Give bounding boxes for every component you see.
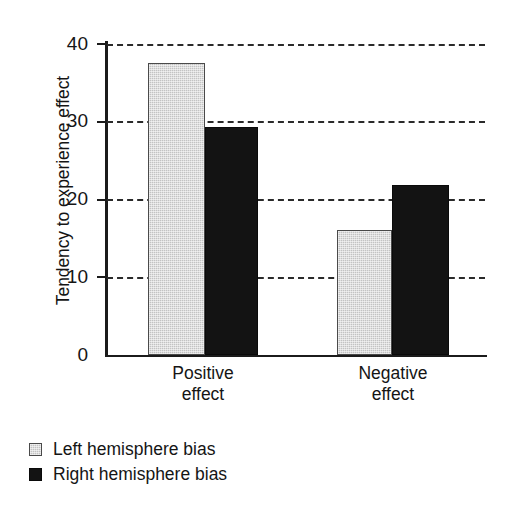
y-tick-30 [97,121,106,123]
bar-positive-left-hemisphere-bias [148,63,205,355]
chart-legend: Left hemisphere bias Right hemisphere bi… [29,437,369,487]
x-category-label-negative-line1: Negative [358,363,427,383]
gridline-10 [107,277,485,279]
x-axis-line [105,355,487,358]
y-tick-label-40: 40 [34,33,88,55]
legend-swatch-gray-icon [29,443,42,456]
bar-chart-figure: Tendency to experience effect 40 30 20 1… [0,0,510,508]
bar-negative-right-hemisphere-bias [392,185,449,355]
legend-swatch-black-icon [29,468,42,481]
y-tick-label-30: 30 [34,110,88,132]
x-category-label-positive-line1: Positive [172,363,233,383]
y-tick-label-10: 10 [34,266,88,288]
gridline-40 [107,44,485,46]
x-category-label-negative-line2: effect [308,384,478,405]
legend-label-left-hemisphere-bias: Left hemisphere bias [53,439,215,460]
y-tick-label-0: 0 [34,344,88,366]
x-category-label-negative: Negative effect [308,363,478,406]
plot-area [0,0,510,508]
legend-item-left-hemisphere-bias: Left hemisphere bias [29,437,369,462]
y-tick-40 [97,43,106,45]
y-tick-10 [97,276,106,278]
bar-negative-left-hemisphere-bias [337,230,392,355]
x-category-label-positive-line2: effect [118,384,288,405]
legend-item-right-hemisphere-bias: Right hemisphere bias [29,462,369,487]
x-category-label-positive: Positive effect [118,363,288,406]
gridline-20 [107,199,485,201]
gridline-30 [107,121,485,123]
y-tick-label-20: 20 [34,188,88,210]
bar-positive-right-hemisphere-bias [205,127,258,355]
y-tick-20 [97,199,106,201]
legend-label-right-hemisphere-bias: Right hemisphere bias [53,464,227,485]
